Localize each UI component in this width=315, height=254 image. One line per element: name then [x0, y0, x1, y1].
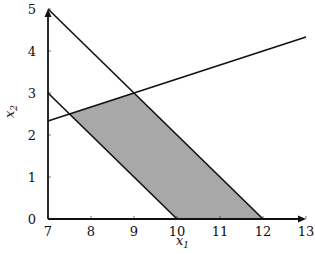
- x-tick-label: 7: [44, 224, 52, 239]
- feasible-region: [70, 93, 264, 219]
- x-tick-label: 12: [255, 224, 272, 239]
- y-tick-label: 0: [28, 212, 36, 227]
- chart: 78910111213012345 x1 x2: [0, 0, 315, 254]
- y-tick-label: 1: [28, 170, 36, 185]
- x-tick-label: 9: [130, 224, 138, 239]
- y-tick-label: 3: [28, 86, 36, 101]
- y-tick-label: 5: [28, 2, 36, 17]
- y-tick-label: 2: [28, 128, 36, 143]
- y-axis-label: x2: [2, 105, 19, 118]
- constraint-line: [48, 37, 306, 121]
- y-tick-label: 4: [28, 44, 36, 59]
- x-tick-label: 8: [87, 224, 95, 239]
- x-tick-label: 13: [298, 224, 315, 239]
- x-tick-label: 11: [212, 224, 229, 239]
- x-axis-label: x1: [176, 233, 189, 250]
